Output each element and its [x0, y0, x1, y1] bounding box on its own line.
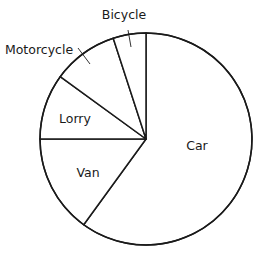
slice-label-motorcycle: Motorcycle — [5, 42, 73, 57]
slice-label-van: Van — [76, 165, 99, 180]
pie-chart: Car Van Lorry Motorcycle Bicycle — [0, 0, 259, 253]
slice-label-bicycle: Bicycle — [102, 7, 147, 22]
slice-label-lorry: Lorry — [59, 111, 91, 126]
slice-label-car: Car — [186, 138, 208, 153]
pie-slices — [40, 33, 252, 245]
